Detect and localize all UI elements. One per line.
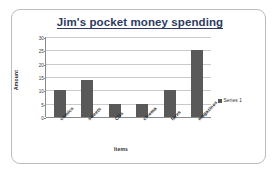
y-tick-label: 10 — [39, 89, 44, 94]
x-tick-labels-group: comicssweetsCDscinemafaresmagazines — [45, 118, 211, 146]
y-tick-label: 30 — [39, 36, 44, 41]
legend-swatch-icon — [218, 99, 222, 103]
plot-wrapper: 302520151050 — [31, 37, 211, 117]
y-tick-label: 0 — [41, 116, 44, 121]
bar-magazines[interactable] — [191, 50, 203, 117]
bar-slot — [46, 37, 74, 117]
bar-slot — [74, 37, 102, 117]
x-label-slot: magazines — [183, 118, 211, 146]
y-tick-label: 15 — [39, 76, 44, 81]
y-axis-title: Amount — [13, 60, 19, 100]
chart-screenshot: Jim's pocket money spending Amount 30252… — [0, 0, 280, 175]
x-axis-title: Items — [31, 146, 211, 152]
plot-area: 302520151050 — [45, 37, 211, 117]
chart-title: Jim's pocket money spending — [0, 16, 280, 28]
y-tick-label: 25 — [39, 49, 44, 54]
x-label-slot: comics — [45, 118, 73, 146]
bar-slot — [156, 37, 184, 117]
bar-slot — [101, 37, 129, 117]
x-label-slot: CDs — [100, 118, 128, 146]
legend-label: Series 1 — [224, 98, 242, 103]
bar-slot — [129, 37, 157, 117]
chart-title-text: Jim's pocket money spending — [57, 16, 223, 29]
y-tick-label: 20 — [39, 62, 44, 67]
bar-sweets[interactable] — [81, 80, 93, 117]
x-label-slot: cinema — [128, 118, 156, 146]
x-label-slot: sweets — [73, 118, 101, 146]
bar-slot — [184, 37, 212, 117]
chart-legend[interactable]: Series 1 — [218, 98, 242, 103]
x-label-slot: fares — [156, 118, 184, 146]
y-tick-label: 5 — [41, 102, 44, 107]
